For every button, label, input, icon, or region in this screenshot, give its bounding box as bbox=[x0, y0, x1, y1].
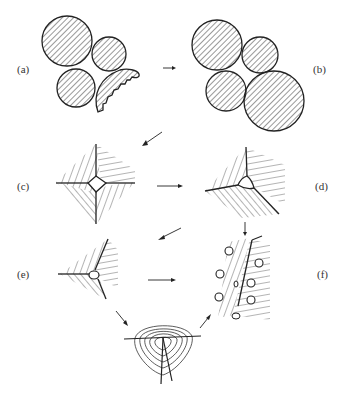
label-e: (e) bbox=[17, 268, 29, 280]
label-d: (d) bbox=[315, 180, 328, 192]
label-f: (f) bbox=[317, 268, 328, 280]
label-b: (b) bbox=[313, 63, 326, 75]
panel-e bbox=[58, 239, 118, 299]
arrow-d-to-f bbox=[243, 222, 247, 236]
panel-g bbox=[124, 326, 201, 384]
arrow-g-to-f bbox=[200, 314, 211, 328]
panel-d bbox=[205, 147, 285, 218]
sintering-diagram bbox=[0, 0, 344, 404]
arrow-a-to-b bbox=[163, 66, 176, 70]
panel-c bbox=[56, 144, 135, 224]
panel-b bbox=[192, 20, 304, 131]
label-c: (c) bbox=[17, 180, 29, 192]
arrow-d-to-e bbox=[158, 228, 181, 240]
arrow-e-to-g bbox=[116, 311, 128, 326]
arrow-b-to-c bbox=[142, 132, 162, 146]
arrow-e-to-f bbox=[148, 278, 176, 282]
panel-f bbox=[215, 236, 270, 320]
arrow-c-to-d bbox=[157, 184, 183, 188]
label-a: (a) bbox=[17, 63, 29, 75]
panel-a bbox=[42, 16, 139, 112]
